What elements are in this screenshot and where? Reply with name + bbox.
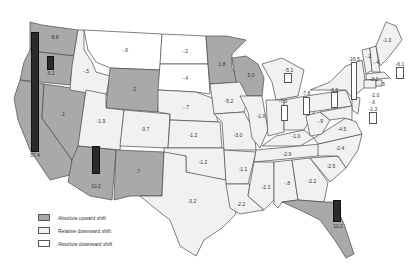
label-wa: 8.8 (52, 34, 59, 40)
bar-az (92, 146, 100, 174)
label-ks: -1.2 (189, 132, 198, 138)
state-me (376, 22, 402, 66)
legend-label: Absolute upward shift (58, 215, 106, 221)
label-md: -1.3 (369, 106, 378, 112)
map-legend: Absolute upward shift Relative downward … (38, 211, 112, 250)
bar-in (281, 105, 288, 121)
bar-ct (369, 112, 377, 124)
legend-swatch-absolute-upward (38, 214, 50, 221)
label-ma: -6.1 (396, 61, 405, 67)
label-in: -7.0 (279, 98, 288, 104)
label-nh: -.2 (365, 53, 371, 59)
label-ct: -3.1 (370, 76, 379, 82)
label-oh: -7.8 (302, 90, 311, 96)
label-mt: -.6 (122, 47, 128, 53)
state-fl (282, 200, 354, 258)
label-vt: -.4 (373, 59, 379, 65)
bar-ma (396, 67, 404, 79)
label-sc: -2.5 (327, 163, 336, 169)
label-il: -1.0 (257, 113, 266, 119)
label-wv: -.9 (317, 118, 323, 124)
label-nv: .1 (61, 111, 65, 117)
state-mi (262, 58, 304, 100)
label-ut: -1.9 (97, 118, 106, 124)
bar-oh (303, 97, 310, 115)
label-nd: -.2 (182, 48, 188, 54)
legend-item-absolute-downward: Absolute downward shift (38, 237, 112, 250)
legend-swatch-relative-downward (38, 227, 50, 234)
label-ne: -.7 (183, 104, 189, 110)
label-nj: -2.0 (371, 92, 380, 98)
label-or: 5.1 (48, 70, 55, 76)
label-ga: -2.2 (308, 178, 317, 184)
label-nc: -2.4 (336, 145, 345, 151)
label-ky: -1.0 (292, 133, 301, 139)
bar-ny (351, 62, 357, 100)
label-mi: -5.1 (285, 67, 294, 73)
label-pa: -6.6 (330, 87, 339, 93)
label-mn: 1.8 (219, 61, 226, 67)
label-ar: -1.1 (239, 166, 248, 172)
label-ri: -.5 (379, 81, 385, 87)
label-va: -4.5 (338, 126, 347, 132)
legend-label: Relative downward shift (58, 228, 111, 234)
label-ms: -2.3 (262, 184, 271, 190)
label-ok: -1.2 (199, 159, 208, 165)
bar-ca (31, 32, 39, 152)
legend-swatch-absolute-downward (38, 240, 50, 247)
legend-item-relative-downward: Relative downward shift (38, 224, 112, 237)
bar-fl (333, 200, 341, 222)
label-az: 10.2 (91, 183, 101, 189)
label-sd: -.4 (182, 75, 188, 81)
label-co: -3.7 (141, 126, 150, 132)
label-me: -1.0 (383, 37, 392, 43)
bar-or (47, 56, 54, 70)
label-id: -.5 (83, 68, 89, 74)
label-fl: 10.2 (333, 223, 343, 229)
label-ia: -5.2 (225, 98, 234, 104)
legend-item-absolute-upward: Absolute upward shift (38, 211, 112, 224)
bar-mi (284, 73, 292, 83)
label-ca: 57.4 (30, 152, 40, 158)
legend-label: Absolute downward shift (58, 241, 112, 247)
state-nm (114, 150, 164, 200)
label-al: -.8 (284, 180, 290, 186)
label-de: -.6 (369, 99, 375, 105)
label-nm: .7 (136, 168, 140, 174)
label-ny: -16.5 (348, 56, 359, 62)
label-mo: -3.0 (234, 132, 243, 138)
bar-pa (331, 92, 338, 108)
label-wy: .2 (132, 86, 136, 92)
label-wi: 5.0 (248, 72, 255, 78)
label-tn: -2.9 (283, 151, 292, 157)
label-la: -2.2 (237, 201, 246, 207)
label-tx: -3.2 (188, 198, 197, 204)
